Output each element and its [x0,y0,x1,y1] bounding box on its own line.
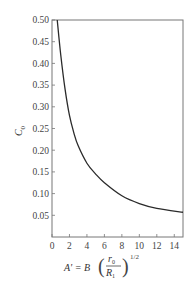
y-tick-label: 0.50 [32,15,49,25]
y-tick-label: 0.05 [32,211,49,221]
x-tick-label: 12 [152,241,162,251]
x-axis-label: A' = B ( r0 R1 ) 1/2 [63,253,139,279]
x-tick-label: 0 [50,241,55,251]
x-tick-label: 4 [85,241,90,251]
y-tick-label: 0.45 [32,37,49,47]
right-paren: ) [122,255,129,278]
y-tick-label: 0.10 [32,189,49,199]
y-axis-label: C0 [13,125,27,136]
y-tick-label: 0.25 [32,124,49,134]
plot-border [52,20,183,237]
x-tick-label: 10 [135,241,145,251]
y-tick-label: 0.40 [32,59,49,69]
svg-text:C0: C0 [13,125,27,136]
svg-text:1/2: 1/2 [130,253,139,261]
x-tick-label: 8 [119,241,124,251]
y-tick-label: 0.15 [32,167,49,177]
svg-text:A' = B: A' = B [63,262,90,273]
line-chart: 0.050.100.150.200.250.300.350.400.450.50… [0,0,196,294]
plot-frame [52,20,183,237]
data-curve [57,20,183,212]
svg-text:R1: R1 [105,267,115,279]
y-tick-label: 0.30 [32,102,49,112]
svg-text:r0: r0 [108,253,115,265]
y-tick-label: 0.20 [32,146,49,156]
x-tick-label: 6 [102,241,107,251]
y-tick-label: 0.35 [32,80,49,90]
x-tick-label: 2 [67,241,72,251]
x-tick-label: 14 [170,241,180,251]
left-paren: ( [98,255,105,278]
